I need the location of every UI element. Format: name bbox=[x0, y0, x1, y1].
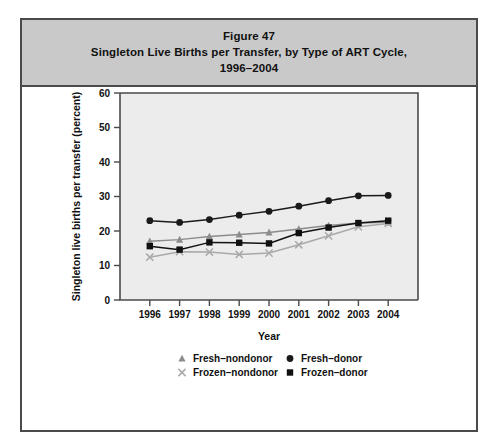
cross-icon bbox=[178, 369, 185, 376]
y-tick-label: 10 bbox=[99, 260, 111, 271]
circle-icon bbox=[355, 192, 362, 199]
y-tick-label: 30 bbox=[99, 191, 111, 202]
figure-number: Figure 47 bbox=[32, 28, 466, 44]
x-tick-label: 2000 bbox=[258, 309, 281, 320]
circle-icon bbox=[287, 355, 294, 362]
chart-body: 0102030405060199619971998199920002001200… bbox=[22, 87, 476, 432]
legend-label: Frozen–donor bbox=[301, 367, 368, 378]
circle-icon bbox=[236, 212, 243, 219]
legend-item: Fresh–donor bbox=[287, 353, 363, 364]
square-icon bbox=[385, 217, 391, 223]
x-tick-label: 2003 bbox=[347, 309, 370, 320]
x-tick-label: 2001 bbox=[288, 309, 311, 320]
x-tick-label: 2002 bbox=[317, 309, 340, 320]
plot-background bbox=[120, 93, 418, 300]
y-tick-label: 40 bbox=[99, 157, 111, 168]
legend-item: Frozen–donor bbox=[287, 367, 368, 378]
square-icon bbox=[355, 220, 361, 226]
circle-icon bbox=[146, 217, 153, 224]
circle-icon bbox=[266, 208, 273, 215]
y-tick-label: 50 bbox=[99, 122, 111, 133]
circle-icon bbox=[176, 219, 183, 226]
legend-item: Fresh–nondonor bbox=[178, 353, 272, 364]
y-tick-label: 20 bbox=[99, 226, 111, 237]
figure-title-years: 1996–2004 bbox=[32, 60, 466, 76]
square-icon bbox=[236, 240, 242, 246]
square-icon bbox=[176, 246, 182, 252]
square-icon bbox=[206, 239, 212, 245]
y-axis-title: Singleton live births per transfer (perc… bbox=[70, 92, 82, 301]
legend-item: Frozen–nondonor bbox=[178, 367, 278, 378]
square-icon bbox=[325, 224, 331, 230]
y-tick-label: 0 bbox=[104, 295, 110, 306]
figure-title-block: Figure 47 Singleton Live Births per Tran… bbox=[22, 20, 476, 87]
chart-legend: Fresh–nondonorFresh–donorFrozen–nondonor… bbox=[178, 353, 367, 378]
circle-icon bbox=[385, 192, 392, 199]
legend-label: Fresh–donor bbox=[301, 353, 362, 364]
figure-title-main: Singleton Live Births per Transfer, by T… bbox=[32, 44, 466, 60]
x-tick-label: 1997 bbox=[168, 309, 191, 320]
square-icon bbox=[266, 240, 272, 246]
line-chart: 0102030405060199619971998199920002001200… bbox=[22, 87, 476, 432]
chart-plot-area: 0102030405060199619971998199920002001200… bbox=[22, 87, 476, 432]
legend-label: Frozen–nondonor bbox=[193, 367, 278, 378]
circle-icon bbox=[295, 203, 302, 210]
square-icon bbox=[147, 243, 153, 249]
x-tick-label: 1999 bbox=[228, 309, 251, 320]
x-tick-label: 1996 bbox=[139, 309, 162, 320]
square-icon bbox=[296, 230, 302, 236]
x-tick-label: 2004 bbox=[377, 309, 400, 320]
circle-icon bbox=[206, 216, 213, 223]
x-axis-title: Year bbox=[258, 330, 280, 342]
circle-icon bbox=[325, 197, 332, 204]
legend-label: Fresh–nondonor bbox=[193, 353, 273, 364]
figure-frame: Figure 47 Singleton Live Births per Tran… bbox=[20, 18, 478, 432]
y-tick-label: 60 bbox=[99, 88, 111, 99]
square-icon bbox=[287, 369, 293, 375]
triangle-icon bbox=[178, 355, 185, 362]
x-tick-label: 1998 bbox=[198, 309, 221, 320]
